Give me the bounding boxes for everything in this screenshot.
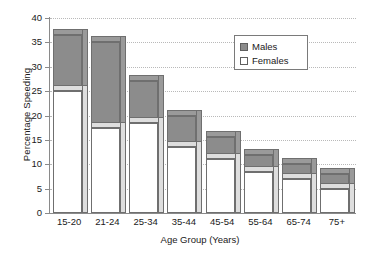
x-tick-label: 21-24 xyxy=(88,216,126,227)
x-tick-label: 45-54 xyxy=(203,216,241,227)
legend-swatch-males-icon xyxy=(240,43,248,51)
legend-swatch-females-icon xyxy=(240,57,248,65)
x-tick-label: 75+ xyxy=(318,216,356,227)
legend-label-females: Females xyxy=(252,56,288,66)
x-axis-ticks: 15-2021-2425-3435-4445-5455-6465-7475+ xyxy=(0,0,368,253)
legend-item-males: Males xyxy=(240,40,307,53)
legend-item-females: Females xyxy=(240,54,307,67)
x-tick-label: 25-34 xyxy=(127,216,165,227)
x-tick-label: 35-44 xyxy=(165,216,203,227)
legend-label-males: Males xyxy=(252,42,277,52)
legend: Males Females xyxy=(234,35,308,70)
x-tick-label: 15-20 xyxy=(50,216,88,227)
bar-chart: Percentage Speeding Age Group (Years) 05… xyxy=(0,0,368,253)
x-tick-label: 65-74 xyxy=(280,216,318,227)
x-tick-label: 55-64 xyxy=(241,216,279,227)
